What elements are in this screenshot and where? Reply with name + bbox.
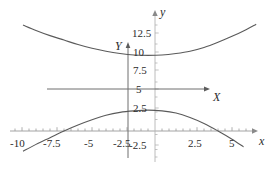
y-tick-label: 7.5	[133, 65, 147, 76]
x-tick-label: -2.5	[113, 138, 130, 149]
Y-axis-label: Y	[115, 40, 122, 52]
x-tick-label: 2.5	[188, 138, 202, 149]
x-axis-arrowhead	[252, 128, 258, 134]
y-tick-label: 5	[136, 84, 142, 95]
X-axis-arrowhead	[204, 87, 210, 92]
y-axis-label: y	[160, 6, 165, 18]
y-tick-label: 2.5	[133, 103, 147, 114]
hyperbola-plot-figure: -10 -7.5 -5 -2.5 2.5 5 12.5 10 7.5 5 2.5…	[0, 0, 271, 171]
x-tick-label: -5	[84, 138, 93, 149]
x-axis-label: x	[259, 135, 264, 147]
X-axis-label: X	[213, 91, 220, 103]
y-axis-group	[152, 10, 158, 162]
y-tick-label: -2.5	[129, 140, 146, 151]
x-tick-label: 5	[229, 138, 235, 149]
y-tick-label: 10	[133, 47, 144, 58]
y-tick-label: 12.5	[132, 28, 151, 39]
Y-axis-arrowhead	[126, 42, 131, 48]
x-tick-label: -10	[10, 138, 25, 149]
y-axis-ticks	[155, 25, 159, 157]
x-tick-label: -7.5	[43, 138, 60, 149]
y-axis-arrowhead	[152, 10, 157, 16]
